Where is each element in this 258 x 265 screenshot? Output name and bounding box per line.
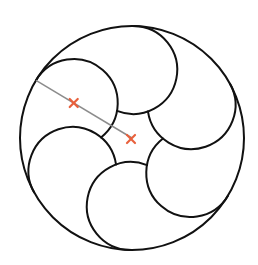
petal-center-x-icon	[70, 99, 78, 107]
inner-circle-arc	[117, 26, 177, 114]
inner-circle-arc	[36, 59, 118, 137]
main-center-x-icon	[127, 135, 135, 143]
pinwheel-circles-figure	[0, 0, 258, 265]
inner-circle-arc	[146, 139, 228, 217]
inner-circle-arc	[87, 162, 147, 250]
diagram-canvas: Six circles inscribed in a circle (pinwh…	[0, 0, 258, 265]
